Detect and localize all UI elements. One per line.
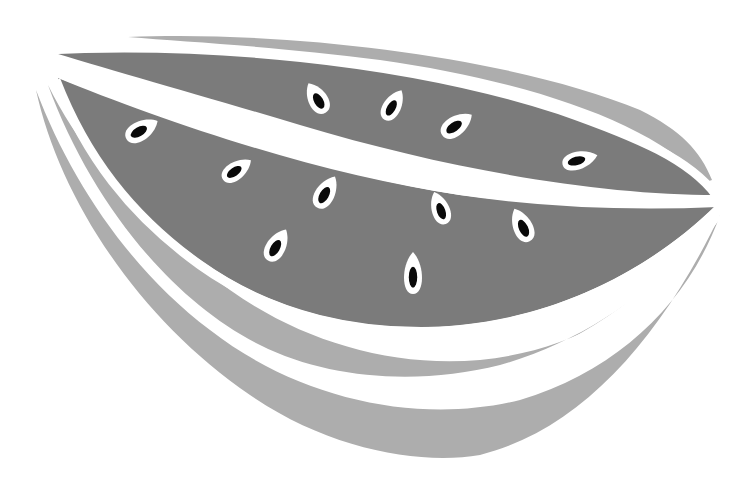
watermelon-illustration: Watermelon slice illustration	[0, 0, 756, 479]
watermelon-svg	[0, 0, 756, 479]
